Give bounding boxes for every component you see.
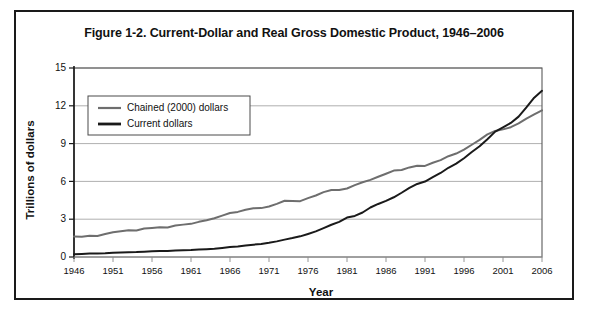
x-tick-label-1956: 1956 [141,265,162,276]
x-tick-label-1996: 1996 [453,265,474,276]
x-tick-label-1961: 1961 [180,265,201,276]
y-axis-group: 03691215 [55,62,74,262]
x-tick-label-1991: 1991 [414,265,435,276]
x-axis-title: Year [309,286,334,298]
x-axis-group: 1946195119561961196619711976198119861991… [63,257,552,276]
x-tick-label-1986: 1986 [375,265,396,276]
chart-legend: Chained (2000) dollarsCurrent dollars [88,96,250,135]
x-tick-label-2006: 2006 [531,265,552,276]
x-tick-label-1966: 1966 [219,265,240,276]
x-tick-label-1976: 1976 [297,265,318,276]
y-tick-label-12: 12 [55,100,67,111]
x-tick-label-1946: 1946 [63,265,84,276]
y-tick-label-0: 0 [60,251,66,262]
legend-label-1: Current dollars [127,118,193,129]
y-tick-label-6: 6 [60,176,66,187]
y-tick-label-3: 3 [60,213,66,224]
y-axis-title: Trillions of dollars [24,120,36,219]
x-tick-label-1981: 1981 [336,265,357,276]
legend-label-0: Chained (2000) dollars [127,102,228,113]
x-tick-label-1971: 1971 [258,265,279,276]
x-tick-label-1951: 1951 [102,265,123,276]
y-tick-label-15: 15 [55,62,67,73]
gdp-line-chart: 03691215 1946195119561961196619711976198… [16,12,576,302]
x-tick-label-2001: 2001 [492,265,513,276]
chart-svg: 03691215 1946195119561961196619711976198… [16,12,576,302]
figure-card: Figure 1-2. Current-Dollar and Real Gros… [14,10,574,300]
y-tick-label-9: 9 [60,138,66,149]
